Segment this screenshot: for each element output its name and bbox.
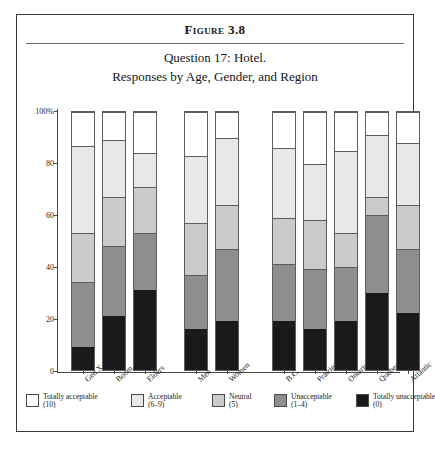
bar-segment-black xyxy=(335,321,357,370)
bar-segment-dark xyxy=(304,269,326,328)
legend-label: Neutral(5) xyxy=(229,393,252,410)
bar-segment-mid xyxy=(185,223,207,275)
legend-item: Unacceptable(1–4) xyxy=(274,393,332,410)
bar-segment-black xyxy=(103,316,125,370)
bar-segment-black xyxy=(216,321,238,370)
stacked-bar: Men xyxy=(184,111,208,371)
y-tick-label: 60 xyxy=(46,211,54,220)
bar-segment-black xyxy=(134,290,156,370)
y-tick-mark xyxy=(54,371,58,372)
x-tick-mark xyxy=(196,370,197,374)
stacked-bar: Gen X xyxy=(71,111,95,371)
bar-segment-light xyxy=(103,140,125,197)
bar-segment-dark xyxy=(216,249,238,321)
figure-frame: Figure 3.8 Question 17: Hotel. Responses… xyxy=(16,14,414,432)
legend-swatch xyxy=(212,394,225,407)
stacked-bar: Elders xyxy=(133,111,157,371)
bar-segment-mid xyxy=(216,205,238,249)
bar-segment-white xyxy=(134,112,156,153)
plot-region: 020406080100% Gen XBoomEldersMenWomenB.C… xyxy=(58,111,398,371)
bar-segment-mid xyxy=(397,205,419,249)
bar-segment-dark xyxy=(366,215,388,292)
bar-segment-mid xyxy=(72,233,94,282)
chart-legend: Totally acceptable(10)Acceptable(6–9)Neu… xyxy=(26,393,406,423)
legend-item: Totally unacceptable(0) xyxy=(356,393,435,410)
legend-swatch xyxy=(26,394,39,407)
bar-segment-mid xyxy=(273,218,295,264)
y-tick-label: 80 xyxy=(46,159,54,168)
bar-segment-black xyxy=(304,329,326,370)
x-tick-mark xyxy=(315,370,316,374)
x-tick-mark xyxy=(284,370,285,374)
legend-swatch xyxy=(356,394,369,407)
stacked-bar: Prairies xyxy=(303,111,327,371)
bar-segment-light xyxy=(397,143,419,205)
figure-label: Figure 3.8 xyxy=(17,22,413,38)
bar-segment-mid xyxy=(103,197,125,246)
legend-label: Unacceptable(1–4) xyxy=(291,393,332,410)
legend-item: Neutral(5) xyxy=(212,393,252,410)
bar-segment-dark xyxy=(103,246,125,316)
bar-segment-dark xyxy=(397,249,419,314)
bar-segment-mid xyxy=(335,233,357,267)
bar-segment-light xyxy=(304,164,326,221)
bar-segment-light xyxy=(185,156,207,223)
legend-swatch xyxy=(131,394,144,407)
legend-item: Totally acceptable(10) xyxy=(26,393,98,410)
x-tick-mark xyxy=(346,370,347,374)
stacked-bar: Women xyxy=(215,111,239,371)
bar-segment-white xyxy=(103,112,125,140)
x-tick-mark xyxy=(114,370,115,374)
stacked-bar: B.C. xyxy=(272,111,296,371)
x-tick-mark xyxy=(377,370,378,374)
bar-segment-black xyxy=(72,347,94,370)
bar-segment-white xyxy=(397,112,419,143)
legend-label: Totally unacceptable(0) xyxy=(373,393,435,410)
y-tick-label: 40 xyxy=(46,263,54,272)
bar-segment-dark xyxy=(185,275,207,329)
bar-segment-black xyxy=(366,293,388,370)
bar-segment-white xyxy=(185,112,207,156)
stacked-bar: Ontario xyxy=(334,111,358,371)
bar-segment-white xyxy=(273,112,295,148)
y-tick-label: 100% xyxy=(35,107,54,116)
bar-segment-mid xyxy=(304,220,326,269)
bar-groups: Gen XBoomEldersMenWomenB.C.PrairiesOntar… xyxy=(58,111,398,371)
bar-segment-light xyxy=(134,153,156,187)
legend-item: Acceptable(6–9) xyxy=(131,393,182,410)
bar-segment-dark xyxy=(72,282,94,347)
x-tick-mark xyxy=(227,370,228,374)
bar-segment-light xyxy=(366,135,388,197)
bar-segment-mid xyxy=(134,187,156,233)
legend-label: Totally acceptable(10) xyxy=(43,393,98,410)
x-tick-mark xyxy=(83,370,84,374)
bar-segment-black xyxy=(273,321,295,370)
x-tick-mark xyxy=(408,370,409,374)
bar-segment-black xyxy=(397,313,419,370)
bar-segment-light xyxy=(216,138,238,205)
bar-segment-white xyxy=(335,112,357,151)
bar-segment-black xyxy=(185,329,207,370)
bar-segment-dark xyxy=(335,267,357,321)
bar-segment-dark xyxy=(134,233,156,290)
bar-segment-mid xyxy=(366,197,388,215)
title-divider xyxy=(26,43,404,44)
bar-segment-white xyxy=(304,112,326,164)
figure-subtitle: Responses by Age, Gender, and Region xyxy=(17,69,413,85)
chart-area: 020406080100% Gen XBoomEldersMenWomenB.C… xyxy=(17,95,413,387)
legend-label: Acceptable(6–9) xyxy=(148,393,182,410)
bar-segment-white xyxy=(366,112,388,135)
bar-segment-dark xyxy=(273,264,295,321)
figure-question: Question 17: Hotel. xyxy=(17,50,413,66)
bar-segment-white xyxy=(216,112,238,138)
stacked-bar: Quebec xyxy=(365,111,389,371)
bar-segment-light xyxy=(335,151,357,234)
x-tick-mark xyxy=(145,370,146,374)
stacked-bar: Atlantic xyxy=(396,111,420,371)
stacked-bar: Boom xyxy=(102,111,126,371)
legend-swatch xyxy=(274,394,287,407)
bar-segment-light xyxy=(273,148,295,218)
y-tick-label: 20 xyxy=(46,315,54,324)
bar-segment-light xyxy=(72,146,94,234)
bar-segment-white xyxy=(72,112,94,146)
